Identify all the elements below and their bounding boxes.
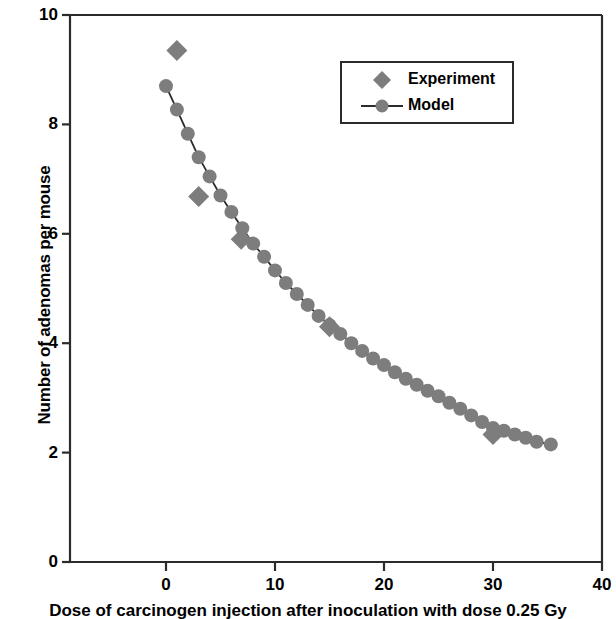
model-point-12: [290, 287, 304, 301]
model-polyline: [166, 86, 551, 444]
model-point-14: [312, 309, 326, 323]
model-point-35: [544, 437, 558, 451]
model-series-markers: [159, 79, 558, 451]
model-point-6: [224, 205, 238, 219]
model-series-line: [166, 86, 551, 444]
model-point-0: [159, 79, 173, 93]
model-point-4: [203, 169, 217, 183]
experiment-point-0: [166, 40, 187, 61]
legend-label-experiment: Experiment: [408, 70, 495, 88]
model-point-1: [170, 103, 184, 117]
plot-area: [0, 0, 616, 619]
experiment-point-1: [188, 186, 209, 207]
model-point-13: [301, 298, 315, 312]
model-point-3: [192, 150, 206, 164]
axis-ticks: [62, 15, 602, 571]
legend-entry-experiment: Experiment: [342, 67, 516, 93]
model-point-10: [268, 263, 282, 277]
model-point-34: [530, 435, 544, 449]
diamond-marker-icon: [360, 67, 404, 93]
legend: Experiment Model: [340, 61, 514, 124]
legend-entry-model: Model: [342, 93, 516, 119]
line-circle-marker-icon: [360, 93, 404, 119]
legend-label-model: Model: [408, 96, 454, 114]
model-point-2: [181, 127, 195, 141]
chart-figure: Number of adenomas per mouse Dose of car…: [0, 0, 616, 619]
model-point-11: [279, 276, 293, 290]
model-point-9: [257, 250, 271, 264]
model-point-5: [214, 189, 228, 203]
